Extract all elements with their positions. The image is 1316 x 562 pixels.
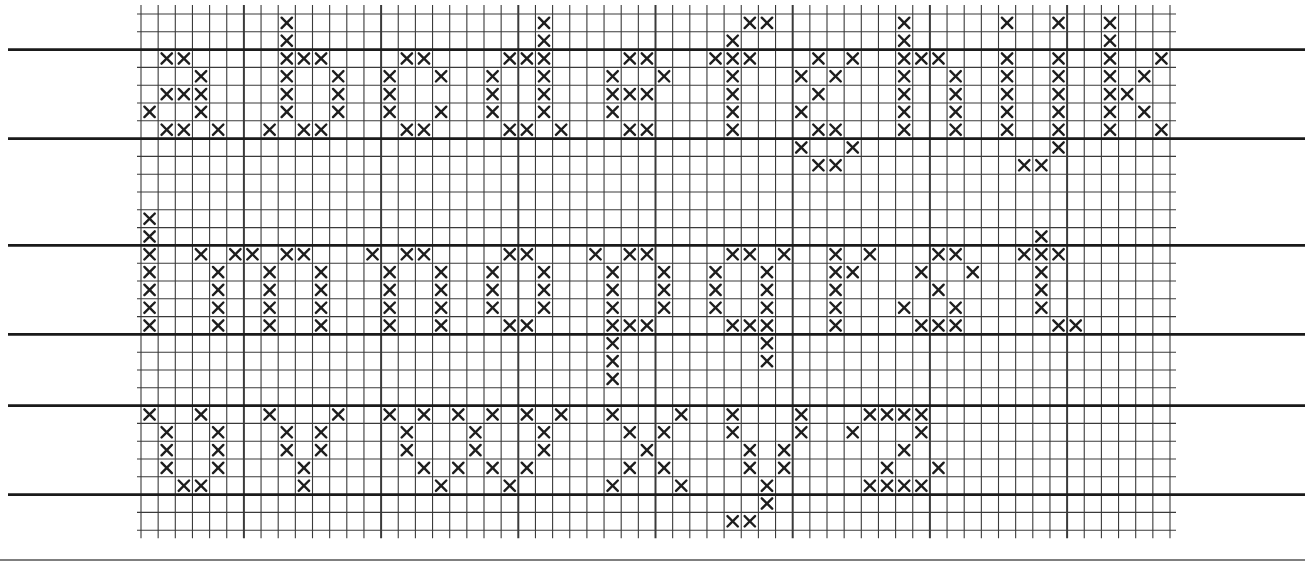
stitch-x-icon [316,53,326,63]
stitch-x-icon [882,481,892,491]
stitch-x-icon [505,125,515,135]
stitch-x-icon [384,409,394,419]
stitch-x-icon [539,445,549,455]
stitch-x-icon [1002,125,1012,135]
stitch-x-icon [282,18,292,28]
stitch-x-icon [487,303,497,313]
stitch-x-icon [607,338,617,348]
stitch-x-icon [179,125,189,135]
stitch-x-icon [607,89,617,99]
stitch-x-icon [402,249,412,259]
stitch-x-icon [436,481,446,491]
stitch-x-icon [659,463,669,473]
stitch-x-icon [762,320,772,330]
stitch-x-icon [779,463,789,473]
stitch-x-icon [659,267,669,277]
stitch-x-icon [727,71,737,81]
stitch-x-icon [402,53,412,63]
stitch-x-icon [436,303,446,313]
stitch-x-icon [505,481,515,491]
stitch-x-icon [607,285,617,295]
stitch-x-icon [916,320,926,330]
stitch-x-icon [625,249,635,259]
stitch-x-icon [916,427,926,437]
stitch-x-icon [144,267,154,277]
stitch-x-icon [213,445,223,455]
stitch-x-icon [162,463,172,473]
stitch-x-icon [1036,160,1046,170]
stitch-x-icon [899,481,909,491]
stitch-x-icon [1070,320,1080,330]
stitch-x-icon [762,285,772,295]
letter-j [1019,18,1064,171]
stitch-x-icon [590,249,600,259]
letter-i [1002,18,1012,135]
stitch-x-icon [796,427,806,437]
stitch-x-icon [522,409,532,419]
stitch-x-icon [950,125,960,135]
stitch-x-icon [470,427,480,437]
stitch-x-icon [796,142,806,152]
stitch-x-icon [899,409,909,419]
stitch-x-icon [144,409,154,419]
stitch-x-icon [1019,249,1029,259]
stitch-x-icon [1105,71,1115,81]
stitch-x-icon [830,320,840,330]
stitch-x-icon [1053,71,1063,81]
stitch-x-icon [625,463,635,473]
stitch-x-icon [950,249,960,259]
stitch-x-icon [848,427,858,437]
stitch-x-icon [522,125,532,135]
stitch-x-icon [539,427,549,437]
stitch-x-icon [264,267,274,277]
stitch-x-icon [505,320,515,330]
stitch-x-icon [642,89,652,99]
stitch-x-icon [950,320,960,330]
stitch-x-icon [282,107,292,117]
stitch-x-icon [505,249,515,259]
stitch-x-icon [607,267,617,277]
stitch-x-icon [162,445,172,455]
stitch-x-icon [607,409,617,419]
stitch-x-icon [539,303,549,313]
stitch-x-icon [762,356,772,366]
stitch-x-icon [830,285,840,295]
stitch-x-icon [264,320,274,330]
stitch-x-icon [522,249,532,259]
stitch-x-icon [1105,125,1115,135]
stitch-x-icon [367,249,377,259]
stitch-x-icon [607,374,617,384]
stitch-x-icon [436,267,446,277]
stitch-x-icon [779,445,789,455]
stitch-x-icon [402,125,412,135]
stitch-x-icon [1105,107,1115,117]
stitch-x-icon [539,18,549,28]
stitch-x-icon [1156,53,1166,63]
stitch-x-icon [419,125,429,135]
stitch-x-icon [539,53,549,63]
stitch-x-icon [1105,36,1115,46]
stitch-x-icon [333,409,343,419]
stitch-x-icon [727,107,737,117]
stitch-x-icon [950,107,960,117]
stitch-x-icon [1002,107,1012,117]
stitch-x-icon [264,125,274,135]
stitch-x-icon [745,53,755,63]
stitch-x-icon [196,249,206,259]
stitch-x-icon [745,249,755,259]
stitch-x-icon [179,53,189,63]
stitch-x-icon [556,125,566,135]
stitch-x-icon [1036,285,1046,295]
stitch-x-icon [1002,53,1012,63]
stitch-x-icon [384,107,394,117]
stitch-x-icon [813,89,823,99]
stitch-x-icon [865,249,875,259]
stitch-x-icon [282,53,292,63]
stitch-x-icon [813,53,823,63]
stitch-x-icon [882,409,892,419]
stitch-x-icon [607,107,617,117]
stitch-x-icon [1053,89,1063,99]
stitch-x-icon [384,320,394,330]
stitch-x-icon [453,463,463,473]
stitch-x-icon [179,481,189,491]
